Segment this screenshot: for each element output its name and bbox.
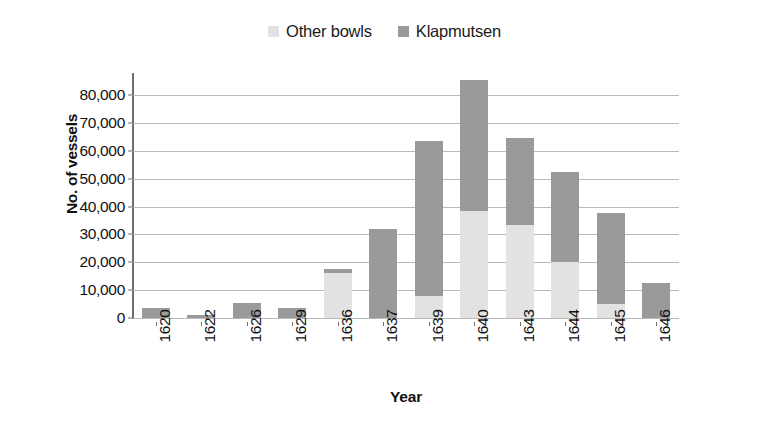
legend-entry-klapmutsen: Klapmutsen: [398, 22, 501, 41]
plot-area: 010,00020,00030,00040,00050,00060,00070,…: [133, 95, 679, 318]
bar-stack[interactable]: [415, 141, 443, 318]
y-axis-tick-label: 20,000: [79, 253, 125, 271]
stacked-bar-chart: Other bowls Klapmutsen No. of vessels 01…: [0, 0, 769, 432]
x-axis-title: Year: [133, 388, 679, 406]
bar-slot: [179, 95, 225, 318]
bar-stack[interactable]: [369, 229, 397, 318]
bar-slot: [497, 95, 543, 318]
y-axis-tick-label: 70,000: [79, 114, 125, 132]
bar-slot: [270, 95, 316, 318]
x-axis-tick-label: 1646: [656, 310, 674, 343]
bar-slot: [406, 95, 452, 318]
x-tick-slot: 1646: [634, 322, 680, 380]
x-axis-tick-label: 1629: [292, 310, 310, 343]
bar-slot: [133, 95, 179, 318]
x-tick-slot: 1626: [224, 322, 270, 380]
bar-slot: [588, 95, 634, 318]
chart-legend: Other bowls Klapmutsen: [0, 22, 769, 41]
legend-label-other-bowls: Other bowls: [286, 22, 372, 41]
x-tick-slot: 1645: [588, 322, 634, 380]
bar-slot: [361, 95, 407, 318]
y-axis-tick-label: 30,000: [79, 225, 125, 243]
bar-slot: [452, 95, 498, 318]
x-axis-tick-label: 1626: [247, 310, 265, 343]
y-axis-tick-label: 80,000: [79, 86, 125, 104]
y-axis-tick-label: 0: [117, 309, 125, 327]
x-axis-tick-label: 1643: [520, 310, 538, 343]
y-axis-title: No. of vessels: [63, 74, 81, 254]
y-axis-tick-label: 40,000: [79, 198, 125, 216]
bar-stack[interactable]: [506, 138, 534, 318]
bar-segment-klapmutsen[interactable]: [506, 138, 534, 224]
x-tick-slot: 1640: [452, 322, 498, 380]
x-axis-tick-label: 1622: [201, 310, 219, 343]
x-axis-tick-label: 1640: [474, 310, 492, 343]
x-axis-tick-label: 1636: [338, 310, 356, 343]
x-axis-tick-label: 1639: [429, 310, 447, 343]
x-axis-tick-labels: 1620162216261629163616371639164016431644…: [133, 322, 679, 380]
bar-slot: [315, 95, 361, 318]
legend-swatch-klapmutsen: [398, 26, 409, 37]
bar-segment-klapmutsen[interactable]: [369, 229, 397, 318]
x-tick-slot: 1622: [179, 322, 225, 380]
bar-slot: [224, 95, 270, 318]
bar-series-group: [133, 95, 679, 318]
bar-segment-klapmutsen[interactable]: [460, 80, 488, 211]
y-axis-tick-label: 10,000: [79, 281, 125, 299]
x-tick-slot: 1643: [497, 322, 543, 380]
x-tick-slot: 1639: [406, 322, 452, 380]
x-tick-slot: 1637: [361, 322, 407, 380]
bar-slot: [634, 95, 680, 318]
bar-segment-other-bowls[interactable]: [506, 225, 534, 318]
x-tick-slot: 1629: [270, 322, 316, 380]
y-axis-tick-label: 60,000: [79, 142, 125, 160]
x-axis-tick-label: 1645: [611, 310, 629, 343]
x-axis-tick-label: 1644: [565, 310, 583, 343]
bar-segment-klapmutsen[interactable]: [551, 172, 579, 263]
legend-swatch-other-bowls: [268, 26, 279, 37]
legend-entry-other-bowls: Other bowls: [268, 22, 372, 41]
bar-segment-other-bowls[interactable]: [460, 211, 488, 318]
bar-segment-klapmutsen[interactable]: [597, 213, 625, 304]
x-tick-slot: 1620: [133, 322, 179, 380]
bar-stack[interactable]: [551, 172, 579, 318]
bar-stack[interactable]: [597, 213, 625, 318]
x-axis-tick-label: 1620: [156, 310, 174, 343]
bar-segment-klapmutsen[interactable]: [415, 141, 443, 296]
x-tick-slot: 1644: [543, 322, 589, 380]
x-axis-tick-label: 1637: [383, 310, 401, 343]
bar-slot: [543, 95, 589, 318]
bar-stack[interactable]: [460, 80, 488, 318]
y-axis-tick-label: 50,000: [79, 170, 125, 188]
x-tick-slot: 1636: [315, 322, 361, 380]
legend-label-klapmutsen: Klapmutsen: [416, 22, 501, 41]
